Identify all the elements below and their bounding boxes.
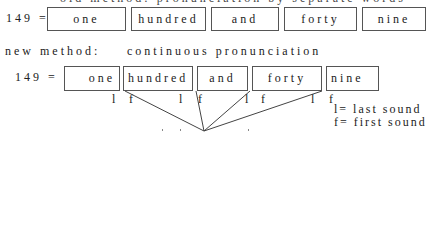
legend-first-sound: f= first sound (334, 115, 427, 130)
